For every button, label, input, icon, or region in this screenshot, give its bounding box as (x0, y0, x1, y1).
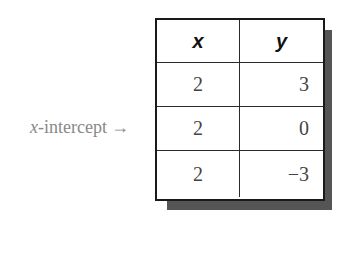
header-x: x (157, 20, 240, 62)
table-row-x-intercept: 2 0 (157, 106, 323, 150)
table-row: 2 3 (157, 62, 323, 106)
header-y: y (240, 20, 323, 62)
cell-x: 2 (157, 107, 240, 150)
cell-y: 0 (240, 107, 323, 150)
xy-value-table: x y 2 3 2 0 2 −3 (155, 18, 325, 201)
table-row: 2 −3 (157, 150, 323, 197)
cell-y: 3 (240, 63, 323, 106)
x-intercept-annotation: x -intercept → (30, 115, 129, 139)
right-arrow-icon: → (111, 117, 129, 138)
table-header-row: x y (157, 20, 323, 62)
cell-y: −3 (240, 151, 323, 197)
annotation-label: -intercept (38, 117, 107, 138)
cell-x: 2 (157, 63, 240, 106)
annotation-variable: x (30, 117, 38, 138)
cell-x: 2 (157, 151, 240, 197)
